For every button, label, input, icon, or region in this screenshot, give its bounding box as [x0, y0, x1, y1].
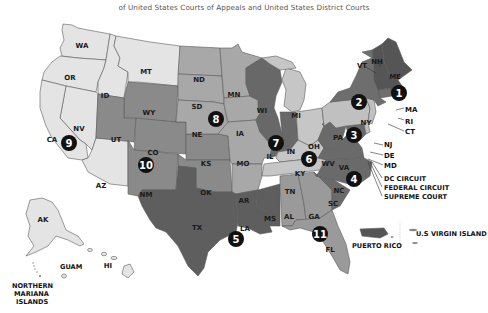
label-tn: TN: [285, 188, 296, 196]
label-ks: KS: [201, 160, 211, 168]
circuit-badge-6[interactable]: 6: [301, 151, 317, 167]
territory-guam[interactable]: [62, 274, 67, 278]
label-vt: VT: [357, 62, 367, 70]
label-mi: MI: [291, 112, 301, 120]
label-sc: SC: [328, 200, 338, 208]
label-wi: WI: [257, 107, 267, 115]
label-ut: UT: [111, 136, 122, 144]
label-wv: WV: [321, 160, 335, 168]
label-ar: AR: [239, 197, 250, 205]
label-ne: NE: [192, 131, 203, 139]
circuit-badge-10[interactable]: 10: [138, 157, 154, 173]
label-il: IL: [266, 153, 274, 161]
svg-text:10: 10: [139, 160, 153, 171]
label-nmi-1: NORTHERN: [12, 282, 53, 290]
svg-text:7: 7: [273, 138, 280, 149]
label-ak: AK: [38, 216, 49, 224]
circuit-badge-3[interactable]: 3: [346, 127, 362, 143]
label-me: ME: [389, 73, 401, 81]
label-az: AZ: [96, 182, 107, 190]
territory-nmi[interactable]: [32, 262, 41, 277]
label-or: OR: [64, 74, 76, 82]
circuit-map: WA OR ID MT NV CA AZ WY UT CO NM KS OK N…: [0, 0, 488, 313]
label-pa: PA: [333, 134, 343, 142]
circuit-badge-11[interactable]: 11: [312, 226, 328, 242]
label-ma: MA: [405, 106, 418, 114]
svg-text:4: 4: [351, 174, 358, 185]
circuit-badge-5[interactable]: 5: [228, 231, 244, 247]
label-wy: WY: [143, 109, 157, 117]
label-ky: KY: [295, 170, 306, 178]
svg-text:9: 9: [66, 138, 73, 149]
label-nmi-2: MARIANA: [14, 290, 50, 298]
label-nmi-3: ISLANDS: [16, 298, 48, 306]
label-ia: IA: [236, 130, 245, 138]
state-mi[interactable]: [282, 68, 306, 112]
label-co: CO: [147, 149, 158, 157]
svg-text:5: 5: [233, 234, 240, 245]
label-usvi: U.S VIRGIN ISLAND: [416, 230, 487, 238]
label-supreme-court: SUPREME COURT: [384, 193, 447, 201]
state-ak[interactable]: [26, 198, 84, 256]
state-nd[interactable]: [178, 46, 222, 76]
label-dc-circuit: DC CIRCUIT: [384, 175, 427, 183]
svg-text:8: 8: [213, 114, 220, 125]
label-va: VA: [339, 164, 350, 172]
label-ga: GA: [308, 213, 320, 221]
label-ms: MS: [264, 215, 276, 223]
circuit-badge-7[interactable]: 7: [268, 135, 284, 151]
label-mo: MO: [237, 160, 250, 168]
state-ar[interactable]: [232, 164, 262, 194]
label-ca: CA: [47, 136, 58, 144]
svg-text:6: 6: [306, 154, 313, 165]
svg-text:11: 11: [313, 229, 327, 240]
label-nm: NM: [140, 191, 153, 199]
circuit-badge-8[interactable]: 8: [208, 111, 224, 127]
label-mt: MT: [140, 68, 152, 76]
label-ct: CT: [405, 128, 415, 136]
state-co[interactable]: [134, 118, 186, 154]
label-in: IN: [287, 148, 296, 156]
label-wa: WA: [76, 42, 89, 50]
label-ok: OK: [200, 189, 212, 197]
label-mn: MN: [228, 91, 241, 99]
circuit-badge-1[interactable]: 1: [391, 85, 407, 101]
circuit-badge-2[interactable]: 2: [351, 94, 367, 110]
circuit-badge-9[interactable]: 9: [61, 135, 77, 151]
svg-text:1: 1: [396, 88, 403, 99]
label-hi: HI: [104, 262, 112, 270]
label-tx: TX: [192, 224, 203, 232]
territory-puerto-rico[interactable]: [360, 228, 394, 238]
label-ri: RI: [405, 118, 413, 126]
label-nc: NC: [334, 187, 345, 195]
label-federal-circuit: FEDERAL CIRCUIT: [384, 184, 450, 192]
label-puerto-rico: PUERTO RICO: [352, 242, 402, 250]
circuit-badge-4[interactable]: 4: [346, 171, 362, 187]
label-nh: NH: [371, 58, 383, 66]
label-nj: NJ: [384, 141, 392, 149]
label-md: MD: [384, 162, 397, 170]
label-la: LA: [240, 225, 250, 233]
label-ny: NY: [361, 119, 373, 127]
label-id: ID: [101, 92, 110, 100]
label-oh: OH: [308, 143, 320, 151]
label-nv: NV: [73, 125, 85, 133]
svg-text:2: 2: [356, 97, 363, 108]
svg-text:3: 3: [351, 130, 358, 141]
label-sd: SD: [192, 103, 203, 111]
label-nd: ND: [193, 76, 205, 84]
label-guam: GUAM: [60, 263, 82, 271]
label-fl: FL: [325, 246, 335, 254]
label-al: AL: [284, 213, 294, 221]
label-de: DE: [384, 152, 395, 160]
